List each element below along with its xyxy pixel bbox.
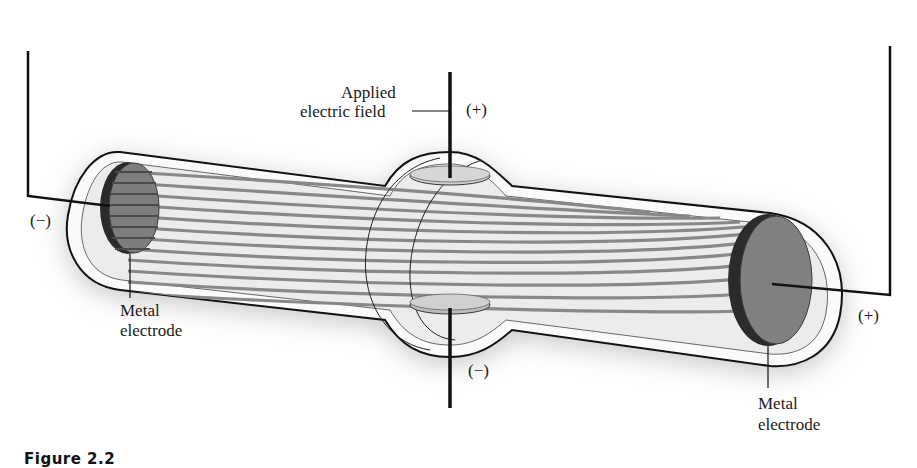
right-electrode-label-line1: Metal [758,393,798,414]
left-electrode-label-line1: Metal [120,300,160,321]
right-electrode-label-line2: electrode [758,414,820,435]
left-terminal-polarity: (−) [30,210,51,231]
applied-field-label-line2: electric field [300,101,385,122]
bottom-plate-polarity: (−) [468,360,489,381]
right-terminal-polarity: (+) [858,305,879,326]
top-plate-polarity: (+) [466,99,487,120]
applied-field-label-line1: Applied [341,82,396,103]
left-electrode-label-line2: electrode [120,320,182,341]
right-metal-electrode [728,214,812,346]
tube-inner [81,162,827,354]
figure-caption: Figure 2.2 [24,450,115,468]
left-metal-electrode [100,162,159,254]
